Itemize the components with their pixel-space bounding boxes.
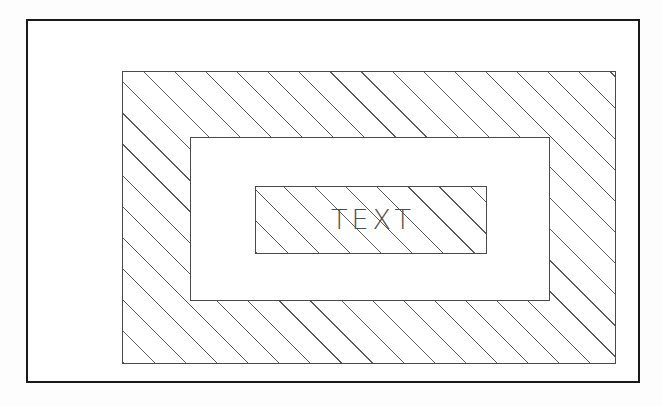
outer-frame: TEXT [26,19,640,383]
inner-hatched-region: TEXT [255,186,487,254]
middle-plain-region: TEXT [190,137,550,301]
outer-hatched-region: TEXT [122,71,616,364]
text-label: TEXT [331,206,415,233]
diagram-canvas: TEXT [0,0,662,406]
